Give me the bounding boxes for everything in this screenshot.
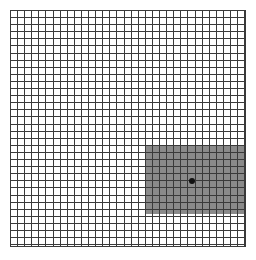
grid-lines <box>10 10 246 247</box>
fixation-point-dot <box>189 178 195 184</box>
amsler-grid-chart <box>0 0 256 260</box>
grid-plate <box>10 10 246 247</box>
